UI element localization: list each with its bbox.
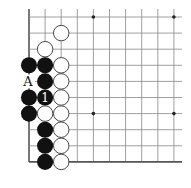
white-stone bbox=[53, 90, 68, 106]
black-stone bbox=[21, 89, 37, 105]
white-stone bbox=[53, 25, 68, 41]
white-stone bbox=[53, 58, 68, 74]
star-point bbox=[92, 15, 96, 19]
white-stone bbox=[53, 138, 68, 154]
black-stone bbox=[21, 57, 37, 73]
black-stone bbox=[21, 106, 37, 122]
star-point bbox=[172, 15, 176, 19]
star-point bbox=[172, 112, 176, 116]
point-labels: A bbox=[22, 74, 35, 89]
white-stone bbox=[53, 106, 68, 122]
black-stone bbox=[37, 57, 53, 73]
star-point bbox=[92, 112, 96, 116]
white-stone bbox=[53, 122, 68, 138]
black-stone bbox=[37, 138, 53, 154]
black-stone bbox=[37, 122, 53, 138]
black-stone bbox=[37, 154, 53, 170]
stones: 1 bbox=[21, 25, 69, 170]
white-stone bbox=[53, 74, 68, 90]
point-label-a: A bbox=[22, 74, 33, 89]
white-stone bbox=[37, 106, 53, 122]
black-stone bbox=[37, 73, 53, 89]
move-number-label: 1 bbox=[41, 91, 49, 105]
white-stone bbox=[53, 154, 68, 170]
go-board: 1 A bbox=[0, 0, 191, 188]
white-stone bbox=[37, 41, 53, 57]
